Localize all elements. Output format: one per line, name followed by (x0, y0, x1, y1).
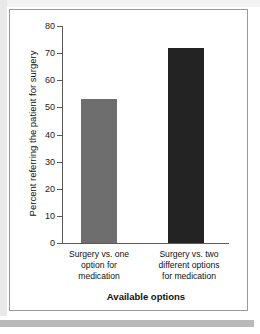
y-axis-tick-mark (57, 26, 62, 27)
bar-chart-plot: 80706050403020100 Percent referring the … (0, 0, 260, 334)
y-axis-tick-mark (57, 243, 62, 244)
y-axis-tick-mark (57, 107, 62, 108)
page-bottom-fill (0, 327, 260, 334)
y-axis-title: Percent referring the patient for surger… (27, 26, 38, 242)
bar-1 (168, 48, 204, 243)
x-axis-category-label-line: Surgery vs. one (58, 249, 140, 260)
x-axis-category-label-line: for medication (143, 271, 235, 282)
x-axis-category-label-1: Surgery vs. twodifferent optionsfor medi… (143, 249, 235, 282)
figure-container: 80706050403020100 Percent referring the … (0, 0, 260, 334)
x-axis-category-label-line: medication (58, 271, 140, 282)
y-axis-tick-mark (57, 189, 62, 190)
y-axis-tick-mark (57, 80, 62, 81)
x-axis-category-label-line: different options (143, 260, 235, 271)
x-axis-category-label-line: option for (58, 260, 140, 271)
y-axis-tick-mark (57, 135, 62, 136)
y-axis-tick-mark (57, 216, 62, 217)
y-axis-tick-mark (57, 162, 62, 163)
page-bottom-band (0, 320, 254, 327)
bar-0 (81, 99, 117, 243)
x-axis-line (62, 243, 229, 244)
y-axis-line (62, 26, 63, 244)
x-axis-category-label-line: Surgery vs. two (143, 249, 235, 260)
x-axis-category-label-0: Surgery vs. oneoption formedication (58, 249, 140, 282)
y-axis-tick-mark (57, 53, 62, 54)
x-axis-title: Available options (62, 291, 230, 302)
